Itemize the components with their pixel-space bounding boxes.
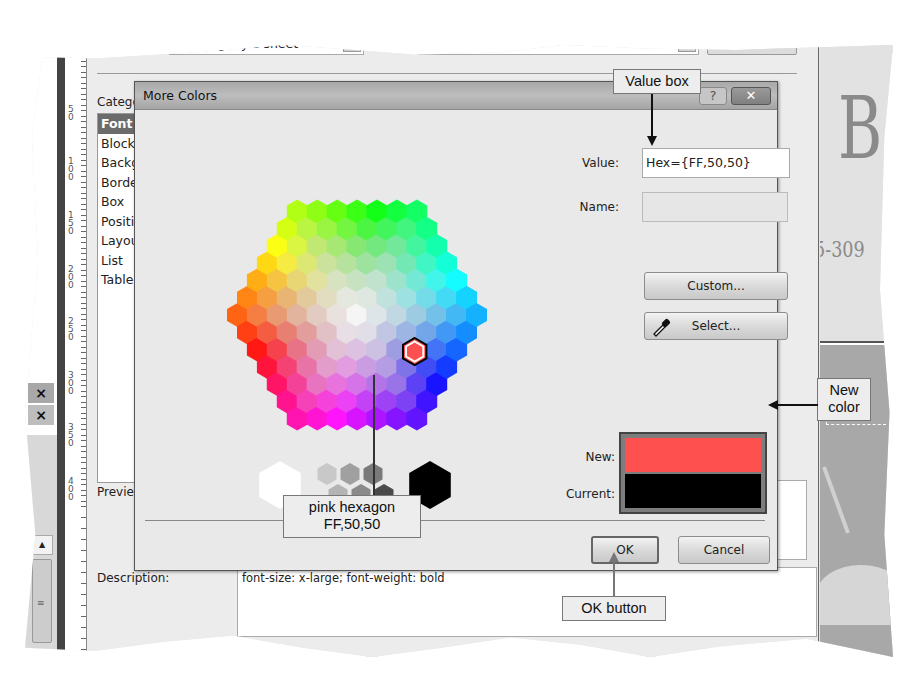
url-value: _styles.css: [424, 45, 525, 51]
callout-line: [776, 404, 818, 406]
ruler-label: 200: [68, 265, 78, 289]
url-select[interactable]: _styles.css ▼: [417, 45, 699, 55]
ruler-label: 100: [68, 157, 78, 181]
ruler-border: [57, 45, 65, 657]
color-hexagon-palette[interactable]: [135, 82, 555, 542]
current-color-swatch: [625, 474, 761, 508]
screenshot-frame: × × ▲ ≡ 0 50 100 150 200 250 300 350 400…: [25, 45, 893, 657]
ok-button[interactable]: OK: [591, 536, 659, 564]
divider: [145, 520, 765, 521]
name-label: Name:: [555, 200, 619, 214]
decorative-shape: [820, 565, 893, 625]
color-compare-swatch: [619, 432, 767, 514]
new-color-swatch: [625, 438, 761, 472]
ruler-label: 0: [68, 51, 78, 59]
help-icon[interactable]: ?: [699, 87, 727, 105]
description-label: Description:: [97, 571, 169, 585]
browse-button[interactable]: [707, 45, 797, 55]
new-color-label: New:: [555, 450, 615, 464]
value-input[interactable]: Hex={FF,50,50}: [642, 148, 790, 178]
description-box: font-size: x-large; font-weight: bold: [237, 567, 817, 637]
more-colors-dialog: More Colors ? ✕ Value: Hex={FF,50,50} Na…: [134, 81, 778, 571]
close-panel-icon[interactable]: ×: [28, 405, 54, 425]
left-panel: × × ▲ ≡: [25, 45, 57, 657]
select-button[interactable]: Select...: [644, 312, 788, 340]
close-icon[interactable]: ✕: [731, 87, 771, 105]
arrow-left-icon: [768, 400, 778, 410]
cancel-button[interactable]: Cancel: [678, 536, 770, 564]
close-panel-icon[interactable]: ×: [28, 383, 54, 403]
ruler-label: 150: [68, 211, 78, 235]
callout-line: [613, 560, 615, 597]
ruler-label: 350: [68, 423, 78, 447]
scroll-up-arrow-icon[interactable]: ▲: [31, 535, 53, 555]
callout-line: [373, 375, 375, 497]
value-label: Value:: [555, 156, 619, 170]
define-in-select[interactable]: Existing style sheet ▼: [169, 45, 364, 55]
current-color-label: Current:: [555, 487, 615, 501]
callout-ok-button: OK button: [562, 596, 666, 621]
arrow-down-icon: [647, 136, 657, 146]
chevron-down-icon[interactable]: ▼: [678, 45, 696, 52]
grip-icon: ≡: [37, 598, 47, 608]
vertical-ruler: 0 50 100 150 200 250 300 350 400: [65, 45, 87, 657]
design-view: B 5-309: [820, 45, 893, 657]
arrow-up-icon: [609, 552, 619, 562]
ruler-label: 250: [68, 317, 78, 341]
callout-new-color: New color: [817, 378, 871, 421]
heading-letter: B: [838, 85, 882, 171]
callout-new-color-text: New color: [828, 382, 859, 415]
define-in-label: Define in:: [95, 45, 153, 51]
chevron-down-icon[interactable]: ▼: [343, 45, 361, 52]
select-button-label: Select...: [692, 319, 740, 333]
ruler-label: 400: [68, 477, 78, 501]
ruler-label: 300: [68, 371, 78, 395]
callout-line: [651, 94, 653, 138]
custom-button[interactable]: Custom...: [644, 272, 788, 300]
eyedropper-icon: [651, 315, 673, 337]
scrollbar-thumb[interactable]: ≡: [32, 559, 52, 643]
ruler-label: 50: [68, 105, 78, 121]
callout-pink-hexagon: pink hexagon FF,50,50: [283, 495, 421, 538]
callout-value-box: Value box: [613, 69, 701, 94]
name-input[interactable]: [642, 192, 788, 222]
define-in-value: Existing style sheet: [176, 45, 298, 51]
phone-text: 5-309: [820, 237, 865, 262]
